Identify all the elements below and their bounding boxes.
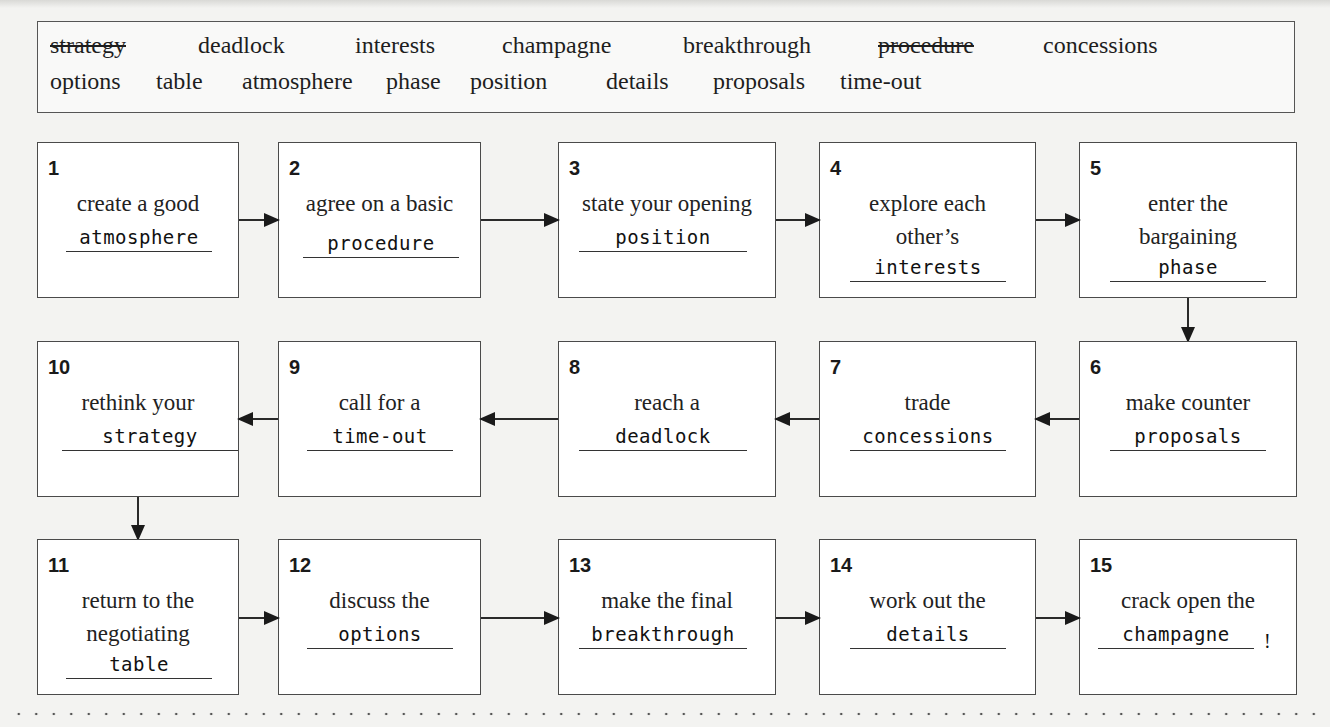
step-answer: procedure [303, 231, 459, 258]
step-box-9: 9 call for a time-out [278, 341, 481, 497]
step-text: return to the negotiating [38, 584, 238, 650]
word-champagne: champagne [502, 32, 611, 59]
step-box-7: 7 trade concessions [819, 341, 1036, 497]
step-number: 2 [289, 157, 300, 180]
step-number: 1 [48, 157, 59, 180]
step-text: state your opening [559, 187, 775, 220]
step-box-2: 2 agree on a basic procedure [278, 142, 481, 298]
step-number: 7 [830, 356, 841, 379]
arrowhead-left-icon [479, 412, 495, 426]
arrow-8-to-9 [481, 418, 558, 420]
word-interests: interests [355, 32, 435, 59]
arrowhead-right-icon [544, 611, 560, 625]
arrowhead-right-icon [544, 213, 560, 227]
step-text: explore each other’s [820, 187, 1035, 253]
step-answer: deadlock [579, 424, 747, 451]
step-number: 15 [1090, 554, 1112, 577]
step-number: 10 [48, 356, 70, 379]
step-answer: table [66, 652, 212, 679]
arrowhead-right-icon [1065, 213, 1081, 227]
step-text: make counter [1080, 386, 1296, 419]
word-procedure: procedure [878, 32, 974, 59]
step-answer: atmosphere [66, 225, 212, 252]
dotted-separator [10, 712, 1320, 716]
step-answer: breakthrough [579, 622, 747, 649]
step-answer: time-out [307, 424, 453, 451]
step-box-1: 1 create a good atmosphere [37, 142, 239, 298]
arrow-9-to-10 [239, 418, 278, 420]
arrowhead-right-icon [805, 611, 821, 625]
step-text: work out the [820, 584, 1035, 617]
word-deadlock: deadlock [198, 32, 285, 59]
step-number: 4 [830, 157, 841, 180]
arrowhead-right-icon [264, 213, 280, 227]
step-box-11: 11 return to the negotiating table [37, 539, 239, 695]
word-concessions: concessions [1043, 32, 1158, 59]
word-table: table [156, 68, 203, 95]
arrow-12-to-13 [481, 617, 558, 619]
step-number: 13 [569, 554, 591, 577]
word-time-out: time-out [840, 68, 921, 95]
step-text: make the final [559, 584, 775, 617]
step-number: 11 [48, 554, 69, 577]
step-answer: details [850, 622, 1006, 649]
step-text: create a good [38, 187, 238, 220]
step-answer: concessions [850, 424, 1006, 451]
step-answer: interests [850, 255, 1006, 282]
step-answer: champagne [1098, 622, 1254, 649]
step-box-4: 4 explore each other’s interests [819, 142, 1036, 298]
arrowhead-left-icon [1034, 412, 1050, 426]
step-text: call for a [279, 386, 480, 419]
word-position: position [470, 68, 547, 95]
step-number: 3 [569, 157, 580, 180]
step-text: enter the bargaining [1080, 187, 1296, 253]
word-atmosphere: atmosphere [242, 68, 353, 95]
step-answer: phase [1110, 255, 1266, 282]
arrow-5-to-6 [1187, 298, 1189, 341]
word-strategy: strategy [50, 32, 126, 59]
step-answer: position [579, 225, 747, 252]
step-answer: options [307, 622, 453, 649]
arrow-10-to-11 [137, 497, 139, 539]
step-box-6: 6 make counter proposals [1079, 341, 1297, 497]
exclamation-mark: ! [1264, 630, 1271, 653]
step-text: agree on a basic [279, 187, 480, 220]
step-text: rethink your [38, 386, 238, 419]
arrowhead-right-icon [264, 611, 280, 625]
word-phase: phase [386, 68, 441, 95]
step-number: 5 [1090, 157, 1101, 180]
step-box-8: 8 reach a deadlock [558, 341, 776, 497]
arrow-2-to-3 [481, 219, 558, 221]
step-number: 14 [830, 554, 852, 577]
step-text: crack open the [1080, 584, 1296, 617]
step-box-10: 10 rethink your strategy [37, 341, 239, 497]
arrow-13-to-14 [776, 617, 819, 619]
step-box-12: 12 discuss the options [278, 539, 481, 695]
step-number: 12 [289, 554, 311, 577]
step-number: 9 [289, 356, 300, 379]
step-answer: proposals [1110, 424, 1266, 451]
step-box-3: 3 state your opening position [558, 142, 776, 298]
step-box-5: 5 enter the bargaining phase [1079, 142, 1297, 298]
word-details: details [606, 68, 669, 95]
arrowhead-right-icon [1065, 611, 1081, 625]
step-text: discuss the [279, 584, 480, 617]
arrow-14-to-15 [1036, 617, 1079, 619]
word-bank-box: strategy deadlock interests champagne br… [37, 21, 1295, 113]
step-number: 8 [569, 356, 580, 379]
word-breakthrough: breakthrough [683, 32, 811, 59]
step-box-13: 13 make the final breakthrough [558, 539, 776, 695]
step-box-14: 14 work out the details [819, 539, 1036, 695]
arrowhead-right-icon [805, 213, 821, 227]
step-text: reach a [559, 386, 775, 419]
step-text: trade [820, 386, 1035, 419]
arrow-3-to-4 [776, 219, 819, 221]
arrow-6-to-7 [1036, 418, 1079, 420]
arrow-11-to-12 [239, 617, 278, 619]
arrow-1-to-2 [239, 219, 278, 221]
arrow-7-to-8 [776, 418, 819, 420]
word-options: options [50, 68, 121, 95]
step-box-15: 15 crack open the champagne ! [1079, 539, 1297, 695]
arrow-4-to-5 [1036, 219, 1079, 221]
arrowhead-left-icon [237, 412, 253, 426]
